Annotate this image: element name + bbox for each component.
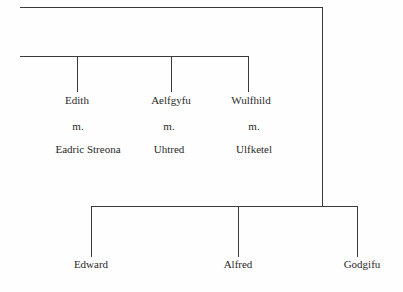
- person-aelfgyfu: Aelfgyfu: [151, 94, 191, 106]
- family-tree-diagram: Edith m. Eadric Streona Aelfgyfu m. Uhtr…: [0, 0, 403, 292]
- edward-connector: [91, 206, 92, 257]
- person-godgifu: Godgifu: [344, 258, 381, 270]
- spouse-uhtred: Uhtred: [154, 143, 185, 155]
- marriage-edith: m.: [72, 120, 83, 132]
- spouse-eadric: Eadric Streona: [55, 143, 120, 155]
- marriage-wulfhild: m.: [248, 120, 259, 132]
- edith-connector: [77, 56, 78, 92]
- person-edith: Edith: [65, 94, 89, 106]
- wulfhild-connector: [248, 56, 249, 92]
- aelfgyfu-connector: [171, 56, 172, 92]
- person-edward: Edward: [74, 258, 108, 270]
- marriage-aelfgyfu: m.: [163, 120, 174, 132]
- right-vertical-line: [322, 7, 323, 207]
- person-wulfhild: Wulfhild: [231, 94, 270, 106]
- person-alfred: Alfred: [224, 258, 253, 270]
- sisters-horizontal-line: [20, 56, 249, 57]
- alfred-connector: [238, 206, 239, 257]
- spouse-ulfketel: Ulfketel: [236, 143, 272, 155]
- top-horizontal-line: [20, 7, 323, 8]
- godgifu-connector: [357, 206, 358, 257]
- children-horizontal-line: [91, 206, 358, 207]
